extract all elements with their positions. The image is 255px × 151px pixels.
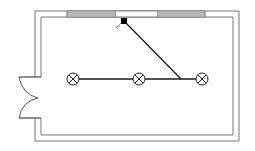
window-right bbox=[157, 11, 205, 17]
floor-plan-svg bbox=[0, 0, 255, 151]
window-left bbox=[67, 11, 116, 17]
wall-segment-center bbox=[116, 11, 157, 17]
floor-plan-diagram bbox=[0, 0, 255, 151]
lamp-1-icon bbox=[67, 73, 79, 85]
door-icon bbox=[19, 77, 38, 118]
wire-switch-junction bbox=[124, 21, 181, 79]
wiring bbox=[79, 21, 196, 79]
lamp-3-icon bbox=[196, 73, 208, 85]
lamp-2-icon bbox=[133, 73, 145, 85]
switch-icon bbox=[116, 18, 127, 29]
